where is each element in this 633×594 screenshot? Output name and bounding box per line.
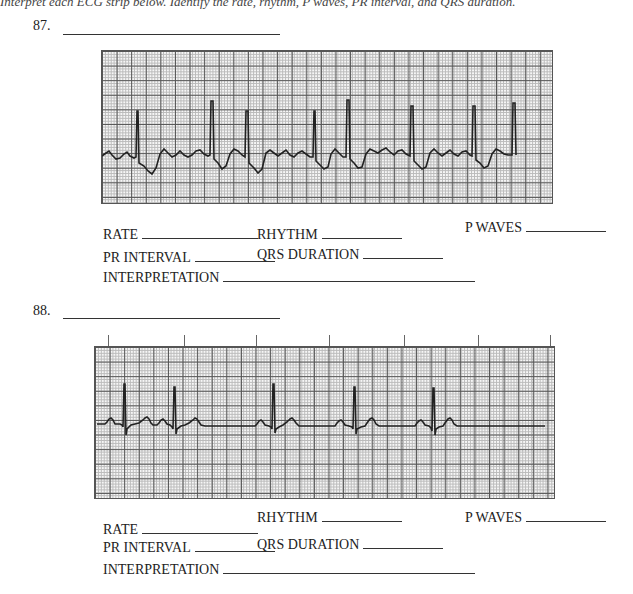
ecg-tracing-87: [102, 51, 552, 203]
rhythm-field-87[interactable]: RHYTHM: [257, 227, 402, 243]
qrs-duration-label: QRS DURATION: [257, 537, 359, 552]
rate-label: RATE: [103, 227, 138, 242]
p-waves-label: P WAVES: [465, 510, 522, 525]
rate-field-87[interactable]: RATE: [103, 227, 258, 243]
p-waves-blank[interactable]: [526, 520, 606, 522]
ecg-strip-87: [101, 50, 553, 204]
rhythm-label: RHYTHM: [257, 510, 318, 525]
pr-interval-label: PR INTERVAL: [103, 540, 191, 555]
p-waves-field-88[interactable]: P WAVES: [465, 510, 606, 526]
p-waves-label: P WAVES: [465, 220, 522, 235]
ecg-tracing-88: [95, 347, 554, 498]
pr-interval-field-88[interactable]: PR INTERVAL: [103, 540, 275, 556]
p-waves-blank[interactable]: [526, 230, 606, 232]
rhythm-label: RHYTHM: [257, 227, 318, 242]
qrs-duration-blank[interactable]: [363, 257, 443, 259]
interpretation-blank[interactable]: [223, 572, 475, 574]
interpretation-field-87[interactable]: INTERPRETATION: [103, 270, 475, 286]
rate-label: RATE: [103, 522, 138, 537]
rate-field-88[interactable]: RATE: [103, 522, 258, 538]
rhythm-field-88[interactable]: RHYTHM: [257, 510, 402, 526]
pr-interval-label: PR INTERVAL: [103, 250, 191, 265]
answer-blank-88[interactable]: [63, 318, 280, 319]
qrs-duration-blank[interactable]: [363, 547, 443, 549]
instructions-text: Interpret each ECG strip below. Identify…: [0, 0, 515, 10]
qrs-duration-field-88[interactable]: QRS DURATION: [257, 537, 443, 553]
exercise-number-88: 88.: [33, 303, 51, 319]
exercise-number-87: 87.: [33, 18, 51, 34]
interpretation-blank[interactable]: [223, 280, 475, 282]
p-waves-field-87[interactable]: P WAVES: [465, 220, 606, 236]
pr-interval-field-87[interactable]: PR INTERVAL: [103, 250, 275, 266]
ecg-strip-88: [94, 346, 555, 499]
qrs-duration-label: QRS DURATION: [257, 247, 359, 262]
rate-blank[interactable]: [142, 532, 258, 534]
interpretation-field-88[interactable]: INTERPRETATION: [103, 562, 475, 578]
rhythm-blank[interactable]: [322, 520, 402, 522]
qrs-duration-field-87[interactable]: QRS DURATION: [257, 247, 443, 263]
rate-blank[interactable]: [142, 237, 258, 239]
rhythm-blank[interactable]: [322, 237, 402, 239]
interpretation-label: INTERPRETATION: [103, 562, 219, 577]
answer-blank-87[interactable]: [63, 34, 280, 35]
interpretation-label: INTERPRETATION: [103, 270, 219, 285]
